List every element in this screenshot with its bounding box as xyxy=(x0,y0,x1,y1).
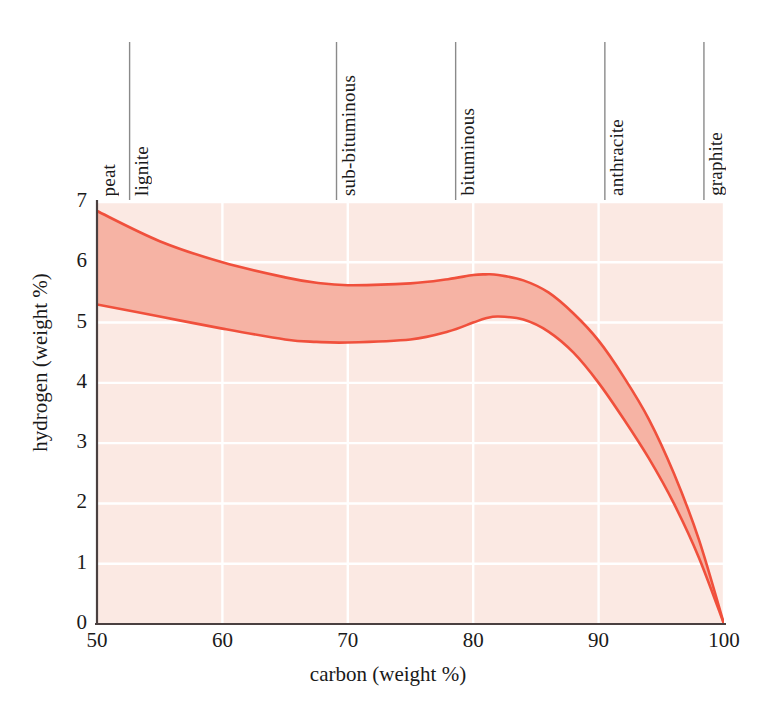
x-tick-80: 80 xyxy=(443,628,503,653)
category-label-peat: peat xyxy=(99,164,118,196)
y-tick-1: 1 xyxy=(47,550,87,575)
category-label-anthracite: anthracite xyxy=(607,119,626,196)
y-tick-5: 5 xyxy=(47,309,87,334)
y-tick-6: 6 xyxy=(47,248,87,273)
category-label-graphite: graphite xyxy=(706,132,725,196)
y-tick-3: 3 xyxy=(47,429,87,454)
chart-canvas xyxy=(0,0,776,722)
x-tick-70: 70 xyxy=(318,628,378,653)
x-tick-100: 100 xyxy=(694,628,754,653)
category-label-sub-bituminous: sub-bituminous xyxy=(339,75,358,196)
y-tick-7: 7 xyxy=(47,188,87,213)
x-tick-90: 90 xyxy=(569,628,629,653)
y-tick-0: 0 xyxy=(47,610,87,635)
x-tick-60: 60 xyxy=(192,628,252,653)
category-label-lignite: lignite xyxy=(132,146,151,196)
y-tick-2: 2 xyxy=(47,489,87,514)
y-axis-title: hydrogen (weight %) xyxy=(28,243,53,483)
x-axis-title: carbon (weight %) xyxy=(0,662,776,687)
category-label-bituminous: bituminous xyxy=(458,108,477,196)
y-tick-4: 4 xyxy=(47,369,87,394)
coal-rank-hydrogen-carbon-chart: peat lignite sub-bituminous bituminous a… xyxy=(0,0,776,722)
